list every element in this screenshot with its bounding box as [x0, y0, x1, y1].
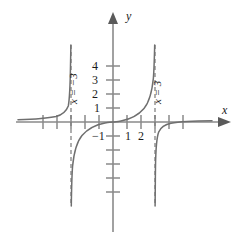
graph-canvas — [0, 0, 244, 250]
y-tick-label-1: 1 — [94, 102, 100, 114]
rational-function-graph: y x 4 3 2 1 −1 1 2 x = −3 x = 3 — [0, 0, 244, 250]
x-tick-label-1: 1 — [125, 130, 131, 142]
x-tick-label-2: 2 — [138, 130, 144, 142]
x-tick-label-minus1: −1 — [92, 130, 105, 142]
curve-branch-left — [18, 45, 71, 120]
y-tick-label-4: 4 — [92, 60, 98, 72]
curve-branch-right — [155, 121, 212, 206]
x-axis-label: x — [222, 104, 227, 116]
y-tick-label-2: 2 — [92, 88, 98, 100]
asymptote-left-label: x = −3 — [68, 73, 79, 104]
y-axis-arrowhead — [108, 12, 118, 24]
x-axis-arrowhead — [218, 117, 231, 127]
y-tick-label-3: 3 — [92, 74, 98, 86]
asymptote-right-label: x = 3 — [152, 81, 163, 104]
y-axis-label: y — [126, 10, 131, 22]
